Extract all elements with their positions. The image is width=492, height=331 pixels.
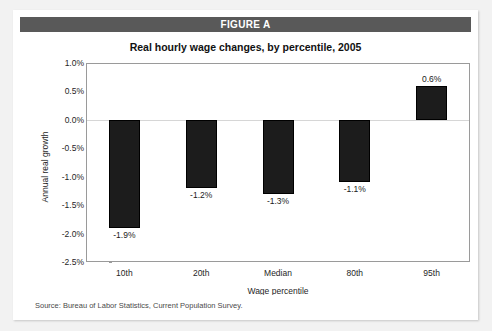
y-axis-tick-label: -2.0% (44, 229, 84, 239)
bar-value-label: 0.6% (402, 74, 462, 84)
figure-page: FIGURE A Real hourly wage changes, by pe… (0, 0, 492, 331)
y-axis-tick-label: -1.0% (44, 172, 84, 182)
source-divider (20, 295, 471, 296)
y-axis-title: Annual real growth (40, 112, 50, 222)
x-axis-tick-label: 10th (89, 268, 159, 278)
source-note: Source: Bureau of Labor Statistics, Curr… (35, 301, 242, 310)
chart-plot-area: 1.0%0.5%0.0%-0.5%-1.0%-1.5%-2.0%-2.5% An… (13, 10, 478, 320)
bar[interactable] (186, 120, 217, 188)
bar[interactable] (109, 120, 140, 228)
x-axis-tick-label: 80th (320, 268, 390, 278)
bar[interactable] (416, 86, 447, 120)
y-axis-tick-label: 1.0% (44, 58, 84, 68)
y-axis-tick-label: 0.5% (44, 86, 84, 96)
x-axis-tick-label: 20th (166, 268, 236, 278)
bar-value-label: -1.9% (94, 230, 154, 240)
x-axis-tick-label: Median (243, 268, 313, 278)
bar-value-label: -1.2% (171, 190, 231, 200)
x-axis-tick-label: 95th (397, 268, 467, 278)
y-axis-tick-label: -0.5% (44, 143, 84, 153)
figure-card: FIGURE A Real hourly wage changes, by pe… (13, 10, 478, 320)
bar[interactable] (263, 120, 294, 194)
y-axis-tick-mark (109, 262, 112, 263)
bar-value-label: -1.3% (248, 196, 308, 206)
bar[interactable] (339, 120, 370, 183)
bar-value-label: -1.1% (325, 184, 385, 194)
y-axis-tick-label: -1.5% (44, 200, 84, 210)
y-axis-tick-label: 0.0% (44, 115, 84, 125)
y-axis-tick-label: -2.5% (44, 257, 84, 267)
